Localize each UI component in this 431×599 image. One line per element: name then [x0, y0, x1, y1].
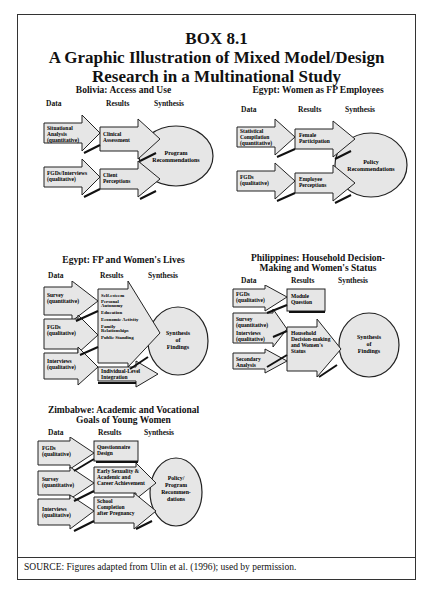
panel-egypt-lives: Egypt: FP and Women's Lives Data Results… [26, 255, 221, 395]
panel-zimbabwe: Zimbabwe: Academic and Vocational Goals … [26, 405, 221, 545]
col-data: Data [46, 99, 61, 108]
source-divider [18, 557, 415, 558]
figure-box: BOX 8.1 A Graphic Illustration of Mixed … [17, 14, 416, 580]
col-data: Data [241, 105, 256, 114]
egypt-employees-diagram: StatisticalCompilation(quantitative) Fem… [223, 115, 413, 215]
panel-title: Egypt: Women as FP Employees [223, 85, 413, 96]
panel-title: Bolivia: Access and Use [26, 85, 221, 96]
col-results: Results [98, 428, 121, 437]
source-note: SOURCE: Figures adapted from Ulin et al.… [24, 562, 296, 572]
panel-title-line-2: Goals of Young Women [26, 415, 221, 426]
zimbabwe-diagram: FGDs(qualitative) Survey(quantitative) I… [26, 437, 221, 542]
col-data: Data [48, 271, 63, 280]
title-line-2: A Graphic Illustration of Mixed Model/De… [18, 48, 415, 67]
col-synthesis: Synthesis [154, 99, 184, 108]
col-results: Results [106, 99, 129, 108]
col-synthesis: Synthesis [338, 276, 368, 285]
col-results: Results [100, 271, 123, 280]
title-line-3: Research in a Multinational Study [18, 67, 415, 86]
bolivia-diagram: SituationalAnalysis(quantitative) Clinic… [26, 109, 221, 209]
panel-title-line-2: Making and Women's Status [223, 263, 413, 274]
col-results: Results [298, 105, 321, 114]
panel-bolivia: Bolivia: Access and Use Data Results Syn… [26, 85, 221, 205]
col-synthesis: Synthesis [148, 271, 178, 280]
col-data: Data [241, 276, 256, 285]
col-synthesis: Synthesis [345, 105, 375, 114]
figure-title: BOX 8.1 A Graphic Illustration of Mixed … [18, 29, 415, 86]
panel-title: Egypt: FP and Women's Lives [26, 255, 221, 266]
svg-text:Interviews(qualitative): Interviews(qualitative) [42, 506, 71, 519]
panel-philippines: Philippines: Household Decision- Making … [223, 253, 413, 393]
box-number: BOX 8.1 [18, 29, 415, 48]
svg-text:ModuleQuestion: ModuleQuestion [291, 293, 312, 305]
col-results: Results [291, 276, 314, 285]
egypt-lives-diagram: Survey(quantitative) FGDs(qualitative) I… [26, 281, 221, 391]
panel-egypt-employees: Egypt: Women as FP Employees Data Result… [223, 85, 413, 215]
col-synthesis: Synthesis [144, 428, 174, 437]
svg-text:Interviews(qualitative): Interviews(qualitative) [47, 358, 76, 371]
philippines-diagram: FGDs(qualitative) Survey(quantitative)In… [223, 285, 413, 390]
col-data: Data [48, 428, 63, 437]
